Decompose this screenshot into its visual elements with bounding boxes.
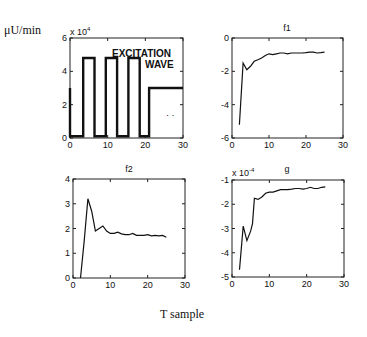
y-tick-label: -5 (221, 272, 229, 282)
y-tick-label: 4 (62, 66, 67, 76)
annotation-wave: WAVE (145, 59, 174, 70)
annotation-excitation: EXCITATION (112, 48, 171, 59)
y-tick-label: 0 (65, 273, 70, 283)
x-tick-label: 30 (178, 140, 188, 150)
exponent-label: x 104 (70, 26, 91, 37)
y-tick-label: -3 (221, 224, 229, 234)
exponent-label: x 10-4 (232, 167, 255, 178)
y-tick-label: 0 (224, 33, 229, 43)
x-tick-label: 20 (143, 280, 153, 290)
y-tick-label: 3 (65, 199, 70, 209)
y-tick-label: 4 (65, 174, 70, 184)
y-tick-label: -2 (221, 66, 229, 76)
x-tick-label: 0 (229, 279, 234, 289)
y-tick-label: -4 (221, 248, 229, 258)
x-tick-label: 0 (70, 280, 75, 290)
y-tick-label: -6 (221, 133, 229, 143)
x-tick-label: 20 (301, 140, 311, 150)
x-tick-label: 30 (180, 280, 190, 290)
figure-xlabel: T sample (160, 307, 204, 321)
axis-ticks: 0102030-1-2-3-4-5 (221, 175, 349, 289)
axes-box (232, 180, 344, 277)
axis-ticks: 01020300-2-4-6 (221, 33, 348, 150)
axes-box (232, 38, 343, 138)
y-tick-label: -2 (221, 199, 229, 209)
x-tick-label: 30 (339, 279, 349, 289)
axes-box (73, 179, 185, 278)
x-tick-label: 30 (338, 140, 348, 150)
y-tick-label: 2 (65, 224, 70, 234)
x-tick-label: 10 (105, 280, 115, 290)
y-tick-label: 6 (62, 33, 67, 43)
y-tick-label: 0 (62, 133, 67, 143)
panel-excitation: 01020300246 x 104 EXCITATION WAVE · · (62, 26, 188, 150)
x-tick-label: 10 (264, 140, 274, 150)
panel-title: f2 (125, 164, 133, 174)
figure: μU/min T sample 01020300246 x 104 EXCITA… (0, 0, 367, 337)
dots: · · (166, 110, 175, 120)
x-tick-label: 20 (302, 279, 312, 289)
y-tick-label: 1 (65, 248, 70, 258)
f2-line (81, 199, 167, 278)
g-line (240, 187, 326, 270)
x-tick-label: 20 (140, 140, 150, 150)
figure-ylabel: μU/min (4, 23, 41, 37)
x-tick-label: 10 (264, 279, 274, 289)
x-tick-label: 0 (229, 140, 234, 150)
y-tick-label: -4 (221, 100, 229, 110)
f1-line (239, 52, 324, 125)
x-tick-label: 10 (103, 140, 113, 150)
y-tick-label: 2 (62, 100, 67, 110)
panel-title: f1 (283, 23, 291, 33)
axis-ticks: 010203001234 (65, 174, 190, 290)
panel-f1: f1 01020300-2-4-6 (221, 23, 348, 150)
x-tick-label: 0 (67, 140, 72, 150)
panel-title: g (284, 164, 289, 174)
panel-g: g 0102030-1-2-3-4-5 x 10-4 (221, 164, 349, 289)
y-tick-label: -1 (221, 175, 229, 185)
panel-f2: f2 010203001234 (65, 164, 190, 290)
